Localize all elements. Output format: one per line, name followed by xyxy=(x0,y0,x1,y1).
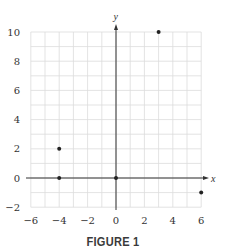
tick-labels: −6−4−20246−20246810 xyxy=(5,27,204,227)
data-point xyxy=(114,176,118,180)
y-tick-label: 4 xyxy=(14,114,20,125)
axes: xy xyxy=(26,11,216,210)
x-tick-label: 2 xyxy=(141,215,147,226)
y-tick-label: 0 xyxy=(14,173,20,184)
x-tick-label: 4 xyxy=(170,215,176,226)
data-point xyxy=(199,191,203,195)
scatter-chart: xy −6−4−20246−20246810 xyxy=(0,0,226,252)
x-tick-label: −2 xyxy=(80,215,95,226)
x-tick-label: 6 xyxy=(198,215,204,226)
data-point xyxy=(157,30,161,34)
y-tick-label: 2 xyxy=(14,143,20,154)
y-axis-arrow-icon xyxy=(114,24,118,30)
y-axis-label: y xyxy=(113,11,119,22)
x-axis-arrow-icon xyxy=(203,176,209,180)
x-axis-label: x xyxy=(210,173,216,184)
data-point xyxy=(57,176,61,180)
y-tick-label: 8 xyxy=(14,56,20,67)
x-tick-label: −4 xyxy=(52,215,67,226)
y-tick-label: 10 xyxy=(7,27,20,38)
figure-caption: FIGURE 1 xyxy=(17,234,209,249)
x-tick-label: 0 xyxy=(113,215,119,226)
y-tick-label: 6 xyxy=(14,85,20,96)
y-tick-label: −2 xyxy=(5,202,20,213)
data-point xyxy=(57,147,61,151)
x-tick-label: −6 xyxy=(23,215,38,226)
